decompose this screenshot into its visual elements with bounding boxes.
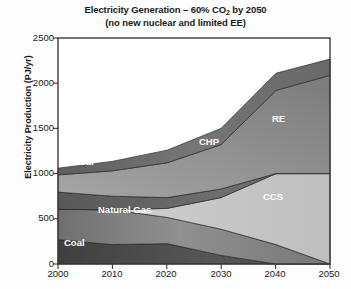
area-label-ccs: CCS xyxy=(263,191,283,202)
chart-container: Electricity Generation – 60% CO2 by 2050… xyxy=(0,0,351,289)
area-label-coal: Coal xyxy=(64,237,85,248)
area-label-nuclear: Nuclear xyxy=(60,156,95,167)
y-axis-ticks xyxy=(53,38,58,264)
plot-area: Coal Natural Gas CCS Nuclear RE CHP xyxy=(0,0,351,289)
x-axis-ticks xyxy=(58,264,330,269)
area-label-re: RE xyxy=(272,113,285,124)
area-label-natural-gas: Natural Gas xyxy=(98,204,151,215)
area-label-chp: CHP xyxy=(199,136,220,147)
